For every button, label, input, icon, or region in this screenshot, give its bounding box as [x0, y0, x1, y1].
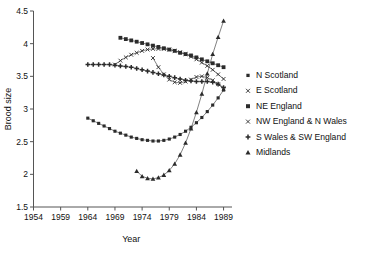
y-tick-label: 3.5: [16, 71, 28, 81]
data-point: [145, 69, 150, 74]
data-point: [184, 52, 188, 56]
data-point: [135, 40, 139, 44]
data-point: [146, 42, 150, 46]
data-point: [205, 59, 209, 63]
data-point: [205, 71, 210, 75]
data-point: [140, 49, 144, 53]
data-point: [130, 136, 133, 139]
series-layer: [86, 18, 226, 180]
data-point: [216, 63, 220, 67]
data-point: [162, 46, 166, 50]
series-nw-england-n-wales: [151, 56, 225, 91]
data-point: [179, 133, 182, 136]
data-point: [210, 80, 215, 85]
data-point: [195, 55, 199, 59]
data-point: [217, 96, 220, 99]
data-point: [107, 62, 112, 67]
data-point: [221, 18, 226, 22]
data-point: [92, 119, 95, 122]
data-point: [118, 59, 122, 63]
data-point: [134, 66, 139, 71]
data-point: [124, 64, 129, 69]
legend-item-e-scotland[interactable]: E Scotland: [246, 85, 298, 95]
data-point: [135, 137, 138, 140]
legend-label: NW England & N Wales: [256, 116, 347, 126]
data-point: [151, 56, 155, 60]
data-point: [178, 51, 182, 55]
data-point: [211, 104, 214, 107]
data-point: [183, 141, 188, 145]
data-point: [118, 36, 122, 40]
data-point: [134, 169, 139, 173]
data-point: [151, 139, 154, 142]
data-point: [97, 122, 100, 125]
legend-marker-plus-icon: [246, 135, 251, 140]
data-point: [86, 62, 91, 67]
data-point: [141, 138, 144, 141]
legend-item-n-scotland[interactable]: N Scotland: [246, 70, 298, 80]
data-point: [129, 65, 134, 70]
data-point: [119, 132, 122, 135]
data-point: [151, 44, 155, 48]
x-tick-label: 1964: [78, 212, 97, 222]
data-point: [206, 110, 209, 113]
data-point: [140, 41, 144, 45]
data-point: [156, 175, 161, 179]
data-point: [189, 79, 194, 84]
data-point: [124, 37, 128, 41]
data-point: [173, 136, 176, 139]
data-point: [222, 65, 226, 69]
x-tick-label: 1959: [51, 212, 70, 222]
data-point: [211, 61, 215, 65]
legend-marker-triangle-icon: [246, 150, 251, 155]
data-point: [200, 57, 204, 61]
legend-label: Midlands: [256, 147, 290, 157]
series-n-scotland: [86, 88, 225, 142]
legend-item-ne-england[interactable]: NE England: [246, 101, 302, 111]
legend-label: E Scotland: [256, 85, 298, 95]
x-tick-label: 1954: [24, 212, 43, 222]
data-point: [151, 70, 156, 75]
legend-item-nw-england-n-wales[interactable]: NW England & N Wales: [246, 116, 347, 126]
data-point: [178, 152, 183, 156]
legend-item-s-wales-sw-england[interactable]: S Wales & SW England: [246, 132, 347, 142]
data-point: [103, 124, 106, 127]
data-point: [221, 85, 226, 90]
chart-legend: N ScotlandE ScotlandNE EnglandNW England…: [246, 70, 347, 157]
data-point: [184, 130, 187, 133]
data-point: [195, 121, 198, 124]
legend-label: NE England: [256, 101, 302, 111]
legend-label: N Scotland: [256, 70, 298, 80]
data-point: [129, 53, 133, 57]
data-point: [200, 116, 203, 119]
data-point: [210, 52, 215, 56]
data-point: [167, 48, 171, 52]
legend-label: S Wales & SW England: [256, 132, 346, 142]
data-point: [162, 139, 165, 142]
y-tick-label: 4.5: [16, 6, 28, 16]
x-tick-label: 1989: [214, 212, 233, 222]
data-point: [216, 72, 220, 76]
data-point: [86, 117, 89, 120]
data-point: [200, 79, 205, 84]
chart-figure: 1.522.533.544.51954195919641969197419791…: [0, 0, 382, 255]
legend-marker-dot-icon: [246, 74, 249, 77]
data-point: [205, 64, 209, 68]
y-tick-label: 4: [23, 39, 28, 49]
legend-marker-x-icon: [246, 120, 250, 124]
data-point: [199, 92, 204, 96]
data-point: [118, 64, 123, 69]
y-tick-label: 2: [23, 169, 28, 179]
data-point: [124, 134, 127, 137]
data-point: [194, 79, 199, 84]
data-point: [113, 130, 116, 133]
data-point: [211, 68, 215, 72]
data-point: [108, 127, 111, 130]
x-tick-label: 1974: [133, 212, 152, 222]
series-ne-england: [118, 36, 225, 69]
data-point: [189, 54, 193, 58]
data-point: [145, 176, 150, 180]
x-tick-label: 1969: [105, 212, 124, 222]
data-point: [102, 62, 107, 67]
legend-item-midlands[interactable]: Midlands: [246, 147, 291, 157]
